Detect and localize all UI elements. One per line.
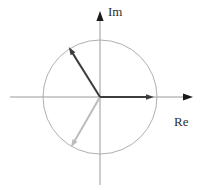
phasor-240-arrowhead (71, 139, 77, 147)
complex-plane-figure: Im Re (0, 0, 204, 190)
re-axis-label: Re (174, 114, 189, 129)
im-axis-label: Im (108, 4, 122, 19)
im-axis-arrowhead (96, 11, 103, 21)
phasor-120-arrowhead (69, 47, 76, 55)
re-axis-arrowhead (183, 93, 193, 100)
vector-phasor-0 (100, 94, 154, 100)
phasor-240-line (73, 97, 100, 144)
phasor-0-arrowhead (146, 94, 154, 100)
vector-phasor-240 (71, 97, 100, 147)
complex-plane-canvas: Im Re (0, 0, 204, 190)
vector-phasor-120 (69, 47, 100, 97)
phasor-120-line (71, 50, 100, 97)
